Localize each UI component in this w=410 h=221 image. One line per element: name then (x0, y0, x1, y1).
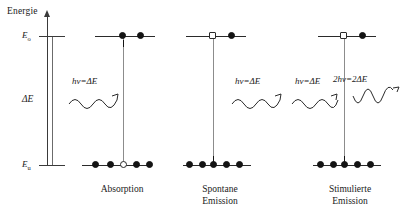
lower-electron (133, 161, 140, 168)
upper-level-tick (39, 36, 65, 37)
lower-electron (367, 161, 374, 168)
upper-electron (119, 32, 126, 39)
caption-absorption: Absorption (82, 184, 162, 196)
energy-level-diagram: Energie Eo Eu ΔE hν=ΔE (0, 0, 410, 221)
lower-electron (146, 161, 153, 168)
lower-level-tick (39, 165, 65, 166)
lower-electron (330, 161, 337, 168)
upper-electron-vacancy (340, 32, 347, 39)
energy-axis-line-secondary (52, 36, 53, 166)
lower-electron (107, 161, 114, 168)
lower-electron (317, 161, 324, 168)
outgoing-photon-label: 2hν=2ΔE (333, 74, 367, 84)
outgoing-photon-wave (231, 90, 289, 112)
transition-arrow-line (213, 38, 214, 165)
upper-level-line (186, 36, 246, 37)
transition-arrowhead (123, 40, 125, 47)
outgoing-photon-wave (352, 86, 408, 114)
lower-electron-vacancy (120, 161, 127, 168)
caption-stimulated-emission: Stimulierte Emission (310, 184, 390, 207)
upper-electron (137, 32, 144, 39)
upper-electron (359, 32, 366, 39)
upper-level-line (318, 36, 376, 37)
lower-electron (186, 161, 193, 168)
energy-gap-label: ΔE (22, 94, 33, 104)
upper-electron (228, 32, 235, 39)
lower-electron (92, 161, 99, 168)
energy-axis-line (47, 16, 48, 166)
upper-level-subscript: o (28, 35, 31, 42)
upper-level-label: Eo (22, 30, 31, 42)
outgoing-photon-label: hν=ΔE (235, 76, 260, 86)
axis-title: Energie (7, 6, 38, 16)
lower-electron (236, 161, 243, 168)
upper-electron-vacancy (209, 32, 216, 39)
incoming-photon-wave (291, 90, 345, 112)
caption-spontaneous-emission: Spontane Emission (183, 184, 257, 207)
lower-level-label: Eu (22, 159, 31, 171)
lower-electron (223, 161, 230, 168)
lower-electron (210, 161, 217, 168)
lower-electron (354, 161, 361, 168)
lower-level-subscript: u (28, 164, 31, 171)
lower-electron (341, 161, 348, 168)
incoming-photon-label: hν=ΔE (72, 76, 97, 86)
incoming-photon-wave (68, 90, 126, 112)
incoming-photon-label: hν=ΔE (295, 76, 320, 86)
lower-electron (199, 161, 206, 168)
